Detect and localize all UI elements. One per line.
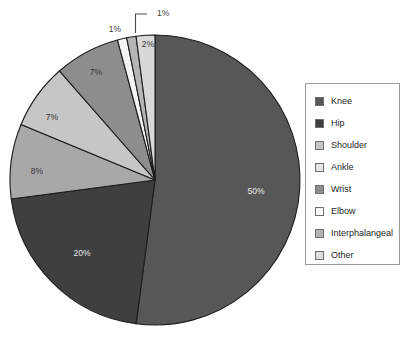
- legend-swatch-hip: [315, 119, 324, 128]
- legend-label-knee: Knee: [331, 97, 352, 106]
- pie-chart-figure: 50% 20% 8% 7% 7% 1% 1% 2% Knee Hip Shoul…: [0, 0, 416, 337]
- legend-label-ankle: Ankle: [331, 163, 354, 172]
- legend-swatch-elbow: [315, 207, 324, 216]
- legend-label-shoulder: Shoulder: [331, 141, 367, 150]
- pie-label-shoulder: 7%: [46, 112, 59, 122]
- legend-swatch-shoulder: [315, 141, 324, 150]
- pie-label-ankle: 8%: [31, 166, 44, 176]
- legend-label-hip: Hip: [331, 119, 345, 128]
- pie-slice-knee[interactable]: [136, 35, 300, 325]
- legend-swatch-ankle: [315, 163, 324, 172]
- pie-label-elbow: 1%: [109, 24, 122, 34]
- legend-label-interphalangeal: Interphalangeal: [331, 229, 393, 238]
- legend-item-wrist[interactable]: Wrist: [315, 178, 399, 200]
- legend-swatch-interphalangeal: [315, 229, 324, 238]
- legend-label-other: Other: [331, 251, 354, 260]
- pie-slices: [10, 35, 300, 325]
- legend-item-other[interactable]: Other: [315, 244, 399, 266]
- legend-label-wrist: Wrist: [331, 185, 351, 194]
- legend-item-ankle[interactable]: Ankle: [315, 156, 399, 178]
- legend-swatch-other: [315, 251, 324, 260]
- pie-label-wrist: 7%: [90, 67, 103, 77]
- pie-label-knee: 50%: [247, 186, 264, 196]
- pie-label-hip: 20%: [73, 248, 90, 258]
- legend-item-interphalangeal[interactable]: Interphalangeal: [315, 222, 399, 244]
- legend-item-elbow[interactable]: Elbow: [315, 200, 399, 222]
- legend-item-shoulder[interactable]: Shoulder: [315, 134, 399, 156]
- legend-label-elbow: Elbow: [331, 207, 356, 216]
- legend-swatch-knee: [315, 97, 324, 106]
- legend-swatch-wrist: [315, 185, 324, 194]
- legend-item-hip[interactable]: Hip: [315, 112, 399, 134]
- pie-label-other: 2%: [142, 39, 155, 49]
- pie-label-interphalangeal: 1%: [157, 8, 170, 18]
- leader-line-interphalangeal: [136, 14, 148, 33]
- chart-legend: Knee Hip Shoulder Ankle Wrist Elbow Inte…: [305, 83, 400, 265]
- legend-item-knee[interactable]: Knee: [315, 90, 399, 112]
